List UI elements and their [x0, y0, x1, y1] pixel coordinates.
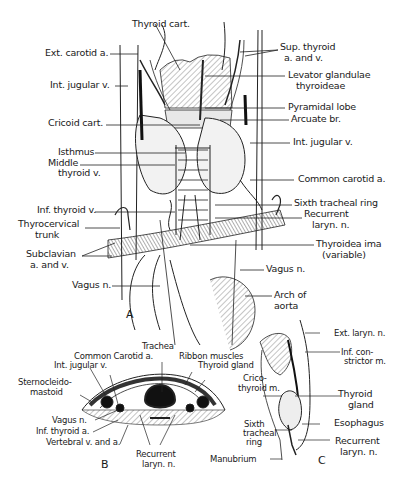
label-int-jugular-v-left: Int. jugular v. — [50, 80, 110, 90]
label-trunk: trunk — [35, 230, 59, 240]
label-vagus-n-left: Vagus n. — [72, 280, 111, 290]
label-sixth-tracheal-ring: Sixth tracheal ring — [294, 198, 378, 208]
label-cricoid-cart: Cricoid cart. — [48, 118, 103, 128]
label-int-jugular-v-b: Int. jugular v. — [54, 361, 107, 370]
label-thyroid-m: thyroid m. — [238, 384, 280, 393]
label-vagus-n-right: Vagus n. — [266, 264, 305, 274]
label-pyramidal-lobe: Pyramidal lobe — [288, 102, 356, 112]
label-common-carotid-a: Common carotid a. — [298, 174, 385, 184]
label-arcuate-br: Arcuate br. — [291, 114, 341, 124]
panel-b-drawing — [80, 362, 225, 445]
label-sternocleido: Sternocleido- — [18, 378, 72, 387]
label-strictor-m: strictor m. — [344, 357, 386, 366]
panel-label-a: A — [126, 308, 134, 321]
label-crico: Crico- — [243, 374, 267, 383]
anatomy-figure: Thyroid cart. Ext. carotid a. Int. jugul… — [0, 0, 404, 477]
label-levator-glandulae: Levator glandulae — [288, 70, 370, 80]
label-trachea: Trachea — [142, 342, 174, 351]
label-inf-thyroid-v: Inf. thyroid v. — [37, 205, 96, 215]
label-thyroid-c: Thyroid — [338, 389, 372, 399]
label-thyroid-gland-b: Thyroid gland — [198, 361, 254, 370]
label-aorta: aorta — [274, 301, 298, 311]
label-thyroideae: thyroideae — [296, 81, 345, 91]
label-mastoid: mastoid — [30, 388, 63, 397]
label-isthmus: Isthmus — [58, 147, 94, 157]
label-ring: ring — [246, 438, 262, 447]
label-thyroid-v: thyroid v. — [58, 168, 100, 178]
label-recurrent-b: Recurrent — [136, 450, 176, 459]
label-variable: (variable) — [322, 250, 366, 260]
label-laryn-n: laryn. n. — [312, 220, 349, 230]
label-laryn-n-b: laryn. n. — [142, 460, 175, 469]
label-laryn-n-c: laryn. n. — [340, 447, 377, 457]
label-thyroidea-ima: Thyroidea ima — [316, 239, 381, 249]
label-recurrent: Recurrent — [304, 209, 349, 219]
label-sup-thyroid: Sup. thyroid — [280, 42, 335, 52]
label-vagus-n-b: Vagus n. — [52, 416, 87, 425]
label-subclavian: Subclavian — [26, 249, 76, 259]
panel-a-drawing — [108, 22, 285, 350]
label-thyroid-cart: Thyroid cart. — [132, 19, 190, 29]
label-subclavian-a-v: a. and v. — [30, 260, 69, 270]
label-recurrent-c: Recurrent — [335, 436, 380, 446]
label-ext-laryn-n: Ext. laryn. n. — [334, 329, 385, 338]
panel-label-c: C — [318, 454, 326, 467]
label-int-jugular-v-right: Int. jugular v. — [293, 137, 353, 147]
label-manubrium: Manubrium — [210, 455, 256, 464]
label-sup-thyroid-a-v: a. and v. — [284, 53, 323, 63]
panel-label-b: B — [101, 458, 109, 471]
label-ext-carotid-a: Ext. carotid a. — [45, 48, 108, 58]
label-thyrocervical: Thyrocervical — [18, 219, 79, 229]
label-gland-c: gland — [348, 400, 374, 410]
label-inf-thyroid-a: Inf. thyroid a. — [36, 427, 89, 436]
label-esophagus: Esophagus — [334, 418, 384, 428]
label-vertebral-v-a: Vertebral v. and a. — [46, 438, 120, 447]
label-arch-of: Arch of — [274, 290, 306, 300]
